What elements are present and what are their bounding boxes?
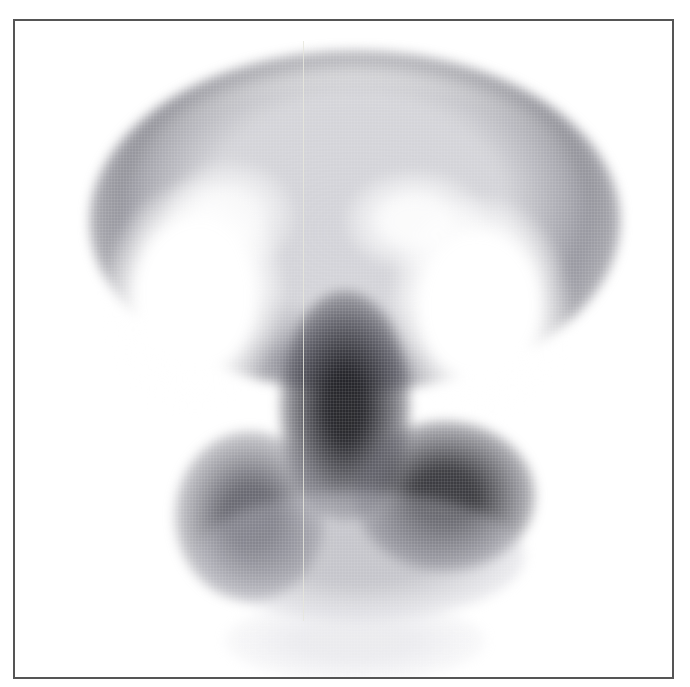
scan-texture [15, 21, 672, 677]
midline-artifact [303, 41, 304, 621]
image-frame [13, 19, 674, 679]
